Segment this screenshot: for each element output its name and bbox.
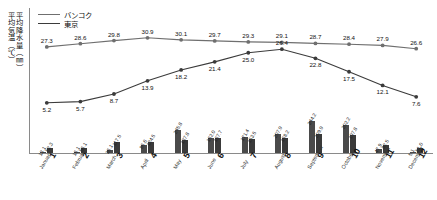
data-point [45,45,49,49]
x-axis-month-name: May [172,158,182,170]
y-axis-title-temperature: 平均気温（℃） [7,12,14,64]
x-axis-month-name: August [273,152,287,170]
data-point [381,44,385,48]
x-axis-month-name: October [340,150,355,170]
data-point [347,70,351,74]
data-point [213,39,217,43]
data-point [179,38,183,42]
data-point [112,92,116,96]
data-point-label: 30.9 [142,28,154,35]
data-point-label: 5.2 [42,106,51,113]
x-axis-month-name: July [239,159,249,170]
data-point-label: 18.2 [175,73,187,80]
data-point-label: 8.7 [110,97,119,104]
data-point-label: 28.7 [309,33,321,40]
data-point [112,39,116,43]
data-point-label: 12.1 [377,88,389,95]
data-point [314,42,318,46]
plot-area: 13.116.136.186.6245.8162.0171.4207.9344.… [30,8,433,153]
data-point-label: 30.1 [175,30,187,37]
data-point-label: 28.6 [74,34,86,41]
y-axis-titles: 平均気温（℃） 平均降水量（㎜） [2,12,28,152]
data-point [414,95,418,99]
data-point-label: 29.8 [108,31,120,38]
x-axis-month-name: March [105,154,118,170]
data-point-label: 29.3 [242,32,254,39]
data-point [179,68,183,72]
data-point [246,40,250,44]
markers-tokyo [45,47,418,104]
y-axis-title-precipitation: 平均降水量（㎜） [16,12,23,71]
line-series-tokyo [47,49,416,103]
data-point [414,47,418,51]
data-point-label: 21.4 [209,65,221,72]
data-point [45,101,49,105]
data-point-label: 27.3 [41,37,53,44]
climate-chart: 平均気温（℃） 平均降水量（㎜） バンコク 東京 13.116.136.186.… [0,0,437,200]
data-point [78,42,82,46]
data-point-label: 29.7 [209,31,221,38]
line-layer [30,8,433,153]
data-point [146,36,150,40]
x-axis-month-name: January [38,150,53,170]
data-point-label: 13.9 [142,84,154,91]
data-point [314,56,318,60]
x-axis-month-name: June [206,157,217,170]
data-point [213,60,217,64]
data-point-label: 5.7 [76,105,85,112]
data-point [347,42,351,46]
data-point-label: 7.6 [412,100,421,107]
data-point-label: 28.4 [343,34,355,41]
data-point [78,100,82,104]
x-axis-month-name: April [139,158,150,170]
data-point [280,47,284,51]
data-point-label: 25.0 [242,56,254,63]
data-point-label: 22.8 [309,61,321,68]
data-point-label: 17.5 [343,75,355,82]
data-point-label: 26.6 [410,39,422,46]
data-point [381,83,385,87]
data-point [246,51,250,55]
data-point-label: 26.4 [276,39,288,46]
x-axis-labels: 1January2February3March4April5May6June7J… [30,154,433,200]
data-point [146,79,150,83]
line-series-bangkok [47,38,416,49]
data-point-label: 27.9 [377,35,389,42]
markers-bangkok [45,36,418,51]
